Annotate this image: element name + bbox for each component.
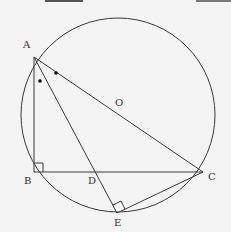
diagram-svg: A B C D E O xyxy=(0,0,231,232)
angle-mark-dot xyxy=(38,79,42,83)
segment-ae xyxy=(34,57,117,213)
geometry-diagram: A B C D E O xyxy=(0,0,231,232)
angle-mark-dot xyxy=(54,71,58,75)
cropped-header-mark xyxy=(196,0,231,2)
label-a: A xyxy=(22,39,31,50)
segment-ac xyxy=(34,57,203,172)
label-c: C xyxy=(208,171,216,182)
label-o: O xyxy=(115,97,123,108)
circumcircle xyxy=(21,18,215,212)
segment-ec xyxy=(117,172,203,213)
label-b: B xyxy=(24,175,31,186)
right-angle-mark-e xyxy=(113,201,125,209)
label-d: D xyxy=(88,175,96,186)
cropped-header-mark xyxy=(45,0,83,2)
label-e: E xyxy=(114,217,121,228)
